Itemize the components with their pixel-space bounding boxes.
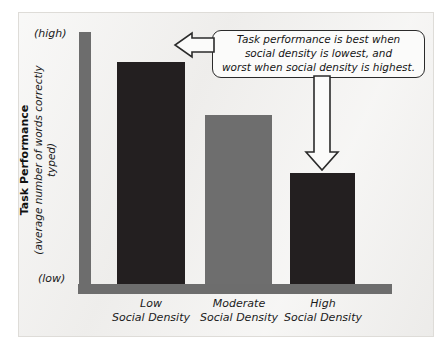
- bar-chart-figure: (high) (low) Task Performance (average n…: [0, 0, 448, 354]
- x-axis-baseline: [78, 284, 392, 294]
- y-axis-low-label: (low): [38, 272, 65, 285]
- x-category-high-line2: Social Density: [268, 311, 378, 325]
- annotation-callout: Task performance is best when social den…: [212, 30, 425, 78]
- y-axis-title-sub: (average number of words correctly typed…: [32, 50, 58, 270]
- x-category-moderate-line1: Moderate: [213, 297, 265, 310]
- annotation-callout-text: Task performance is best when social den…: [216, 33, 421, 75]
- x-category-low-line1: Low: [140, 297, 162, 310]
- x-category-label-high: High Social Density: [268, 297, 378, 325]
- x-category-high-line1: High: [310, 297, 335, 310]
- low-social-density-bar: [117, 62, 185, 284]
- moderate-social-density-bar: [205, 115, 272, 284]
- y-axis-high-label: (high): [34, 27, 67, 40]
- high-social-density-bar: [290, 173, 355, 284]
- y-axis-title: Task Performance (average number of word…: [18, 50, 58, 270]
- y-axis-title-main: Task Performance: [18, 50, 32, 270]
